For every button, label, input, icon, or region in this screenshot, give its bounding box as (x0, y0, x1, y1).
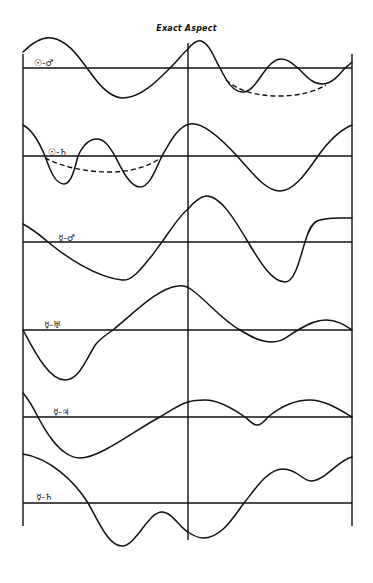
aspect-label: ☉-♄ (48, 147, 67, 157)
aspect-label: ☿-♅ (44, 320, 61, 330)
aspect-label: ☿-♂ (58, 233, 75, 243)
aspect-label: ☿-♄ (36, 492, 53, 502)
aspect-diagram (0, 0, 373, 583)
dashed-trend-curve (45, 157, 162, 172)
aspect-label: ☉-♂ (34, 58, 53, 68)
frame-lines (23, 43, 352, 540)
aspect-label: ☿-♃ (53, 407, 70, 417)
dashed-trend-curve (226, 80, 326, 96)
